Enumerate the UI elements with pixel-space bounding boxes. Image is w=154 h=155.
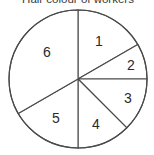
slice-label-5: 5 — [52, 110, 60, 126]
pie-chart: 123456 — [0, 0, 154, 155]
slice-label-2: 2 — [127, 57, 135, 73]
slice-label-6: 6 — [43, 44, 51, 60]
slice-label-3: 3 — [124, 90, 132, 106]
slice-label-4: 4 — [92, 116, 100, 132]
pie-slices — [9, 10, 147, 148]
slice-label-1: 1 — [95, 33, 103, 49]
